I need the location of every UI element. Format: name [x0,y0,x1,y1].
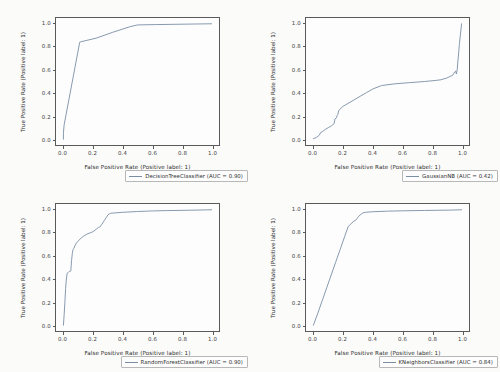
subplot-decision-tree: True Positive Rate (Positive label: 1) D… [0,0,250,186]
y-axis-label: True Positive Rate (Positive label: 1) [18,203,28,332]
subplot-gaussian-nb: True Positive Rate (Positive label: 1) G… [250,0,500,186]
x-axis-tick [463,332,464,335]
x-axis-tick [433,332,434,335]
x-axis-tick-label: 1.0 [458,150,467,156]
y-axis-tick [53,279,56,280]
y-axis-tick-label: 0.6 [283,67,301,73]
legend-line-swatch [129,176,142,177]
x-axis-tick-label: 0.0 [308,150,317,156]
x-axis-tick [343,146,344,149]
x-axis-tick [313,146,314,149]
y-axis-tick [53,117,56,118]
y-axis-tick-label: 0.8 [283,229,301,235]
x-axis-tick-label: 0.2 [88,336,97,342]
curve-canvas [306,204,469,331]
x-axis-tick [373,146,374,149]
y-axis-tick [53,256,56,257]
roc-curve-line [63,210,211,325]
plot-area [55,203,220,332]
y-axis-label: True Positive Rate (Positive label: 1) [18,17,28,146]
y-axis-tick-label: 0.0 [33,323,51,329]
x-axis-tick-label: 0.6 [148,150,157,156]
x-axis-tick [313,332,314,335]
x-axis-tick [373,332,374,335]
legend-line-swatch [406,176,419,177]
curve-canvas [306,18,469,145]
x-axis-tick [343,332,344,335]
y-axis-tick [303,256,306,257]
y-axis-tick-label: 0.0 [33,137,51,143]
plot-area [305,17,470,146]
y-axis-tick-label: 0.6 [33,253,51,259]
y-axis-tick-label: 1.0 [283,206,301,212]
legend-line-swatch [125,362,138,363]
y-axis-label: True Positive Rate (Positive label: 1) [268,203,278,332]
y-axis-tick [303,326,306,327]
y-axis-tick-label: 0.4 [33,276,51,282]
x-axis-tick-label: 0.4 [118,336,127,342]
y-axis-tick [303,209,306,210]
x-axis-tick-label: 0.0 [58,150,67,156]
x-axis-tick-label: 0.0 [58,336,67,342]
x-axis-label: False Positive Rate (Positive label: 1) [55,164,220,170]
y-axis-tick [303,117,306,118]
x-axis-tick [403,146,404,149]
roc-curve-line [313,24,461,139]
y-axis-tick-label: 0.6 [283,253,301,259]
y-axis-tick-label: 0.4 [33,90,51,96]
x-axis-tick-label: 0.2 [338,150,347,156]
y-axis-tick-label: 0.6 [33,67,51,73]
x-axis-tick [213,146,214,149]
x-axis-tick-label: 0.8 [178,336,187,342]
legend: RandomForestClassifier (AUC = 0.90) [121,356,248,368]
y-axis-tick [53,232,56,233]
plot-area [55,17,220,146]
x-axis-tick-label: 0.8 [428,150,437,156]
y-axis-tick-label: 0.0 [283,323,301,329]
x-axis-tick [153,146,154,149]
y-axis-tick-label: 0.2 [283,114,301,120]
x-axis-tick [433,146,434,149]
y-axis-tick-label: 1.0 [33,206,51,212]
x-axis-tick [183,146,184,149]
y-axis-tick-label: 0.8 [33,43,51,49]
y-axis-tick [53,303,56,304]
x-axis-tick [153,332,154,335]
y-axis-tick [53,326,56,327]
x-axis-tick [93,146,94,149]
curve-canvas [56,18,219,145]
x-axis-tick-label: 1.0 [208,150,217,156]
legend-line-swatch [383,362,396,363]
x-axis-tick [403,332,404,335]
curve-canvas [56,204,219,331]
y-axis-tick-label: 0.2 [283,300,301,306]
y-axis-tick [303,140,306,141]
legend: DecisionTreeClassifier (AUC = 0.90) [125,170,248,182]
x-axis-tick [63,146,64,149]
y-axis-tick-label: 0.0 [283,137,301,143]
x-axis-label: False Positive Rate (Positive label: 1) [305,350,470,356]
x-axis-tick-label: 0.0 [308,336,317,342]
x-axis-tick-label: 0.2 [88,150,97,156]
y-axis-tick [53,209,56,210]
x-axis-tick-label: 0.8 [178,150,187,156]
legend-label: KNeighborsClassifier (AUC = 0.84) [399,359,494,365]
x-axis-tick-label: 0.6 [398,150,407,156]
x-axis-tick-label: 1.0 [208,336,217,342]
y-axis-tick [303,70,306,71]
x-axis-tick [463,146,464,149]
y-axis-tick-label: 1.0 [33,20,51,26]
x-axis-tick-label: 0.2 [338,336,347,342]
y-axis-tick [53,93,56,94]
y-axis-tick-label: 0.8 [283,43,301,49]
plot-area [305,203,470,332]
x-axis-tick [123,146,124,149]
x-axis-tick-label: 0.6 [398,336,407,342]
y-axis-tick [303,93,306,94]
y-axis-tick-label: 0.2 [33,300,51,306]
y-axis-tick [53,70,56,71]
y-axis-tick [53,46,56,47]
x-axis-tick [63,332,64,335]
legend-label: GaussianNB (AUC = 0.42) [422,173,493,179]
x-axis-tick-label: 0.4 [368,150,377,156]
